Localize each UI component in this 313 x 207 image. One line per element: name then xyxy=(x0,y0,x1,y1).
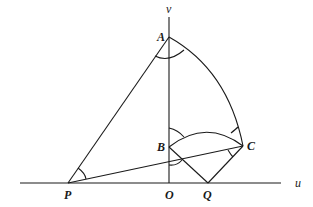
label-A: A xyxy=(156,30,165,44)
label-P: P xyxy=(64,188,72,202)
arc-BC xyxy=(169,132,243,147)
angle-mark-C-upper xyxy=(231,127,238,133)
angle-mark-B-upper xyxy=(169,128,184,137)
label-C: C xyxy=(247,139,256,153)
label-B: B xyxy=(156,140,165,154)
segment-PA xyxy=(68,37,169,183)
label-v: v xyxy=(166,2,172,16)
angle-mark-C-lower xyxy=(228,150,233,157)
segment-QC xyxy=(208,146,243,183)
label-Q: Q xyxy=(203,188,212,202)
segment-PC xyxy=(68,146,243,183)
geometry-diagram: v u A B C O P Q xyxy=(0,0,313,207)
label-O: O xyxy=(165,188,174,202)
angle-mark-P xyxy=(78,168,86,179)
label-u: u xyxy=(295,176,301,190)
